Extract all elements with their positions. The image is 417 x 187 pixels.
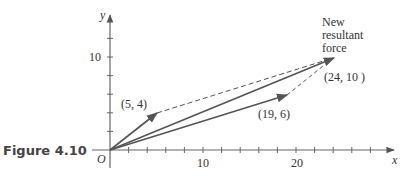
vector-5-4 [110, 113, 157, 150]
x-tick-label-20: 20 [291, 156, 303, 170]
dashed-line-a [157, 58, 333, 113]
vector-diagram: y x 10 10 20 O (5, 4) (19, 6) (24, 10 ) … [0, 0, 417, 187]
annotation-line1: New [322, 15, 345, 29]
annotation-line3: force [322, 41, 347, 55]
x-axis [92, 147, 394, 153]
figure-caption: Figure 4.10 [3, 143, 87, 158]
vector-label-19-6: (19, 6) [258, 107, 290, 121]
vector-label-24-10: (24, 10 ) [324, 70, 365, 84]
y-axis-label: y [99, 8, 106, 22]
x-tick-label-10: 10 [197, 156, 209, 170]
annotation-line2: resultant [322, 28, 364, 42]
vector-label-5-4: (5, 4) [121, 97, 147, 111]
y-axis [107, 15, 113, 168]
y-tick-label-10: 10 [89, 50, 101, 64]
origin-label: O [97, 152, 106, 166]
x-axis-label: x [391, 153, 398, 167]
